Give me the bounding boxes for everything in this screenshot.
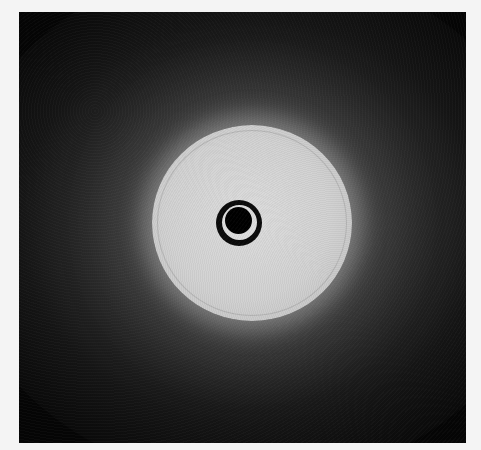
beamstop-center [225, 207, 252, 234]
diffraction-image-frame [19, 12, 466, 443]
